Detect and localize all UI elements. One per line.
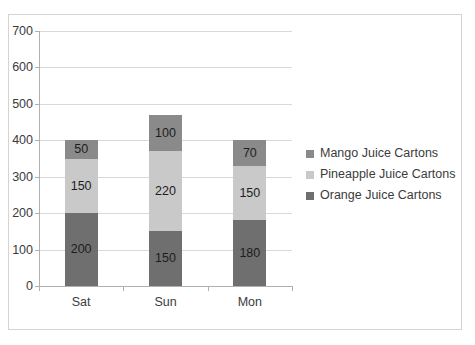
y-tick-mark-500 (35, 104, 39, 105)
bar-value-label: 50 (74, 143, 88, 156)
gridline-500 (39, 104, 292, 105)
y-tick-label-700: 700 (12, 25, 33, 38)
bar-value-label: 200 (71, 243, 92, 256)
y-tick-label-0: 0 (26, 280, 33, 293)
y-tick-mark-100 (35, 250, 39, 251)
legend-item-orange[interactable]: Orange Juice Cartons (306, 185, 456, 206)
legend-item-pineapple[interactable]: Pineapple Juice Cartons (306, 164, 456, 185)
bar-segment-mon-mango[interactable]: 70 (233, 140, 266, 166)
y-tick-mark-600 (35, 67, 39, 68)
bar-segment-mon-pineapple[interactable]: 150 (233, 166, 266, 221)
bar-segment-sun-mango[interactable]: 100 (149, 115, 182, 151)
x-tick-label-mon: Mon (238, 296, 262, 309)
bar-group-mon[interactable]: 18015070 (233, 140, 266, 286)
legend-swatch-icon (306, 192, 314, 200)
bar-segment-sun-orange[interactable]: 150 (149, 231, 182, 286)
x-tick-mark-2 (208, 286, 209, 291)
bar-segment-sat-pineapple[interactable]: 150 (65, 159, 98, 214)
y-tick-label-600: 600 (12, 61, 33, 74)
bar-group-sun[interactable]: 150220100 (149, 115, 182, 286)
gridline-600 (39, 67, 292, 68)
chart-legend: Mango Juice CartonsPineapple Juice Carto… (306, 143, 456, 206)
legend-label: Pineapple Juice Cartons (320, 168, 456, 181)
legend-swatch-icon (306, 150, 314, 158)
bar-value-label: 70 (243, 147, 257, 160)
bar-segment-sat-mango[interactable]: 50 (65, 140, 98, 158)
bar-value-label: 150 (71, 180, 92, 193)
chart-frame: 0100200300400500600700 20015050150220100… (8, 14, 462, 330)
x-tick-label-sat: Sat (72, 296, 91, 309)
bar-value-label: 150 (239, 187, 260, 200)
y-tick-label-200: 200 (12, 207, 33, 220)
bar-segment-sat-orange[interactable]: 200 (65, 213, 98, 286)
bar-value-label: 150 (155, 252, 176, 265)
gridline-700 (39, 31, 292, 32)
x-tick-mark-1 (123, 286, 124, 291)
bar-value-label: 180 (239, 247, 260, 260)
bar-segment-mon-orange[interactable]: 180 (233, 220, 266, 286)
y-tick-mark-400 (35, 140, 39, 141)
y-axis-line (39, 31, 40, 286)
bar-value-label: 220 (155, 185, 176, 198)
legend-label: Mango Juice Cartons (320, 147, 438, 160)
gridline-0 (39, 286, 292, 287)
bar-value-label: 100 (155, 127, 176, 140)
bar-segment-sun-pineapple[interactable]: 220 (149, 151, 182, 231)
y-tick-mark-700 (35, 31, 39, 32)
y-tick-mark-200 (35, 213, 39, 214)
y-tick-label-300: 300 (12, 170, 33, 183)
x-tick-mark-0 (39, 286, 40, 291)
x-tick-mark-3 (292, 286, 293, 291)
legend-label: Orange Juice Cartons (320, 189, 442, 202)
plot-area: 0100200300400500600700 20015050150220100… (39, 31, 292, 286)
y-tick-label-500: 500 (12, 98, 33, 111)
x-tick-label-sun: Sun (154, 296, 176, 309)
legend-swatch-icon (306, 171, 314, 179)
y-tick-label-100: 100 (12, 243, 33, 256)
bar-group-sat[interactable]: 20015050 (65, 140, 98, 286)
y-tick-label-400: 400 (12, 134, 33, 147)
y-tick-mark-300 (35, 177, 39, 178)
legend-item-mango[interactable]: Mango Juice Cartons (306, 143, 456, 164)
